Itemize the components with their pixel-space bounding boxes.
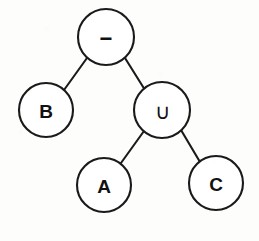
node-c[interactable]: C xyxy=(189,156,243,210)
tree-canvas: − B ∪ A C xyxy=(0,0,259,241)
node-c-label: C xyxy=(209,174,223,195)
node-b[interactable]: B xyxy=(19,83,73,137)
expression-tree-diagram: − B ∪ A C xyxy=(0,0,259,241)
node-a-label: A xyxy=(97,176,111,197)
edge-root-to-b xyxy=(64,58,87,90)
node-union[interactable]: ∪ xyxy=(134,82,190,138)
node-union-label: ∪ xyxy=(155,100,170,123)
node-a[interactable]: A xyxy=(77,158,131,212)
edge-union-to-c xyxy=(181,130,200,162)
node-root[interactable]: − xyxy=(78,9,134,65)
edge-union-to-a xyxy=(121,131,144,163)
node-b-label: B xyxy=(39,101,53,122)
node-root-label: − xyxy=(100,26,113,51)
edge-root-to-union xyxy=(125,58,145,90)
